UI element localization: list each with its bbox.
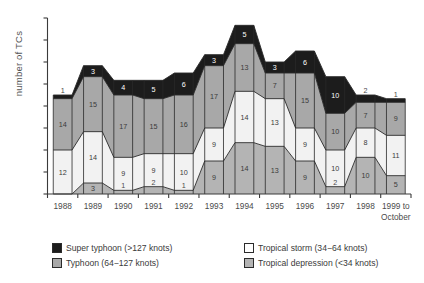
data-value-label: 2 [152,178,156,187]
x-tick-label-line2: October [370,212,422,222]
data-value-label: 1 [394,90,398,99]
data-value-label: 12 [59,168,67,177]
data-value-label: 6 [182,80,186,89]
data-value-label: 16 [180,120,188,129]
data-value-label: 17 [119,122,127,131]
data-value-label: 7 [273,81,277,90]
chart-figure: number of TCs 31219141392105121499109141… [0,0,424,283]
legend-swatch-tropical-storm [244,243,254,253]
data-value-label: 3 [91,67,95,76]
data-value-label: 5 [152,85,156,94]
legend-item-typhoon[interactable]: Typhoon (64−127 knots) [52,258,159,268]
legend-item-super-typhoon[interactable]: Super typhoon (>127 knots) [52,243,172,253]
data-value-label: 7 [364,111,368,120]
chart-legend: Super typhoon (>127 knots) Typhoon (64−1… [52,243,412,279]
data-value-label: 2 [333,178,337,187]
legend-label-tropical-depression: Tropical depression (<34 knots) [258,258,378,268]
legend-item-tropical-depression[interactable]: Tropical depression (<34 knots) [244,258,378,268]
data-bands-group [53,25,405,194]
data-value-label: 9 [152,166,156,175]
legend-label-typhoon: Typhoon (64−127 knots) [66,258,159,268]
data-value-label: 10 [331,91,339,100]
data-value-label: 14 [240,113,248,122]
legend-swatch-typhoon [52,258,62,268]
data-value-label: 3 [273,63,277,72]
data-value-label: 3 [212,56,216,65]
data-value-label: 5 [242,30,246,39]
x-tick-label-1999-to-october: 1999 toOctober [370,201,422,222]
data-value-label: 9 [212,140,216,149]
legend-item-tropical-storm[interactable]: Tropical storm (34−64 knots) [244,243,367,253]
legend-swatch-tropical-depression [244,258,254,268]
data-value-label: 10 [362,171,370,180]
data-value-label: 15 [301,96,309,105]
data-value-label: 6 [303,58,307,67]
data-value-label: 14 [59,120,67,129]
legend-label-tropical-storm: Tropical storm (34−64 knots) [258,243,367,253]
data-value-label: 10 [331,164,339,173]
x-tick-label-line1: 1999 to [382,201,410,211]
data-value-label: 9 [121,169,125,178]
data-value-label: 1 [182,181,186,190]
data-value-label: 9 [303,140,307,149]
data-value-label: 17 [210,92,218,101]
data-value-label: 3 [91,184,95,193]
data-value-label: 5 [394,180,398,189]
data-value-label: 9 [303,173,307,182]
data-value-label: 9 [212,173,216,182]
legend-swatch-super-typhoon [52,243,62,253]
data-value-label: 15 [150,122,158,131]
data-value-label: 1 [121,181,125,190]
data-value-label: 9 [394,114,398,123]
data-value-label: 14 [240,164,248,173]
stacked-area-plot: 3121914139210512149910914139108111415171… [0,0,424,283]
data-value-label: 8 [364,138,368,147]
data-value-label: 13 [271,118,279,127]
data-value-label: 13 [240,63,248,72]
data-value-label: 4 [121,83,125,92]
data-value-label: 10 [331,127,339,136]
data-value-label: 15 [89,100,97,109]
data-value-label: 13 [271,166,279,175]
data-value-label: 2 [364,86,368,95]
data-value-label: 1 [61,86,65,95]
data-value-label: 10 [180,168,188,177]
data-value-label: 14 [89,153,97,162]
data-value-label: 11 [392,151,399,160]
legend-label-super-typhoon: Super typhoon (>127 knots) [66,243,172,253]
